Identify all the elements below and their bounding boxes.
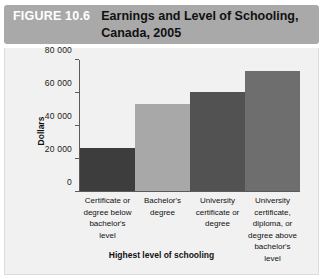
y-axis-tick-label: 40 000 xyxy=(45,111,72,121)
chart-panel: Dollars 020 00040 00060 00080 000 Certif… xyxy=(4,48,319,275)
y-axis-tick-label: 0 xyxy=(67,177,72,187)
y-axis-tick xyxy=(75,125,79,126)
bar xyxy=(135,104,190,191)
y-axis-tick xyxy=(75,191,79,192)
bar xyxy=(245,71,300,191)
x-axis-title: Highest level of schooling xyxy=(5,250,318,260)
figure-title: Earnings and Level of Schooling, Canada,… xyxy=(101,8,313,41)
y-axis-tick xyxy=(75,158,79,159)
y-axis-tick xyxy=(75,59,79,60)
bar xyxy=(190,92,245,191)
figure-number-label: FIGURE 10.6 xyxy=(13,8,90,23)
figure-header-banner: FIGURE 10.6 Earnings and Level of School… xyxy=(4,5,319,44)
bar-series xyxy=(80,59,300,191)
y-axis-tick xyxy=(75,92,79,93)
y-axis-tick-label: 80 000 xyxy=(45,45,72,55)
y-axis-tick-label: 20 000 xyxy=(45,144,72,154)
y-axis-tick-label: 60 000 xyxy=(45,78,72,88)
plot-area: 020 00040 00060 00080 000 xyxy=(79,60,300,192)
x-axis-line xyxy=(79,191,300,192)
bar xyxy=(80,148,135,191)
figure-container: FIGURE 10.6 Earnings and Level of School… xyxy=(0,0,323,279)
